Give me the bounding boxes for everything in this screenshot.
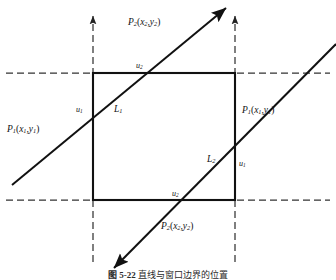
figure-caption-text: 直线与窗口边界的位置	[138, 270, 228, 280]
label-p1-right: P1(x1,y1)	[242, 106, 274, 116]
label-L1: L1	[114, 105, 122, 115]
segment-line-L1	[12, 8, 226, 185]
label-u2-top: u2	[136, 62, 143, 70]
label-L2: L2	[207, 155, 215, 165]
label-u1-right: u1	[239, 160, 246, 168]
label-p2-top: P2(x2,y2)	[128, 18, 160, 28]
segment-line-L2	[114, 44, 336, 268]
clipping-window-rect	[93, 73, 235, 200]
geometry-diagram-canvas	[0, 0, 336, 280]
label-u1-left-sub: 1	[80, 108, 83, 114]
label-L2-sub: 2	[212, 157, 215, 164]
figure-caption-number: 图 5-22	[108, 270, 136, 280]
label-p2-bottom: P2(x2,y2)	[161, 222, 193, 232]
label-u1-right-sub: 1	[243, 162, 246, 168]
label-u2-bottom-sub: 2	[176, 192, 179, 198]
figure-caption: 图 5-22 直线与窗口边界的位置	[0, 268, 336, 280]
label-u2-top-sub: 2	[140, 64, 143, 70]
label-u1-left: u1	[76, 106, 83, 114]
figure-container: P2(x2,y2) P1(x1,y1) P1(x1,y1) P2(x2,y2) …	[0, 0, 336, 280]
label-u2-bottom: u2	[172, 190, 179, 198]
label-p1-left: P1(x1,y1)	[7, 125, 39, 135]
label-L1-sub: 1	[119, 107, 122, 114]
